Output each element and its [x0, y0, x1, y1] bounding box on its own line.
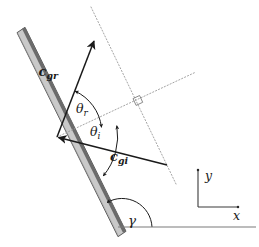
reflected-vector-symbol: c — [39, 64, 47, 79]
y-axis-label: y — [204, 168, 213, 183]
incident-vector-symbol: c — [110, 149, 118, 164]
incident-vector-label: cgi — [110, 149, 128, 166]
incidence-angle-subscript: i — [98, 131, 101, 141]
plate-edge-stripe — [22, 27, 126, 233]
plate-inclination-label: γ — [128, 212, 137, 228]
incident-vector-subscript: gi — [118, 155, 129, 166]
plate-highlight-line — [18, 33, 119, 236]
reflection-diagram-svg: cgr cgi θr θi γ y x — [0, 0, 259, 247]
reflection-angle-subscript: r — [84, 108, 89, 118]
reflected-vector-label: cgr — [39, 64, 59, 81]
figure-root: cgr cgi θr θi γ y x — [0, 0, 259, 247]
perpendicular-construction-line — [91, 7, 176, 184]
coordinate-axes — [198, 170, 238, 207]
reflected-vector-subscript: gr — [47, 70, 60, 81]
x-axis-label: x — [233, 208, 240, 223]
incidence-angle-label: θi — [90, 124, 101, 141]
inclined-plate — [17, 27, 126, 236]
reflected-ray-vector — [57, 41, 94, 137]
reflection-angle-label: θr — [76, 101, 89, 118]
